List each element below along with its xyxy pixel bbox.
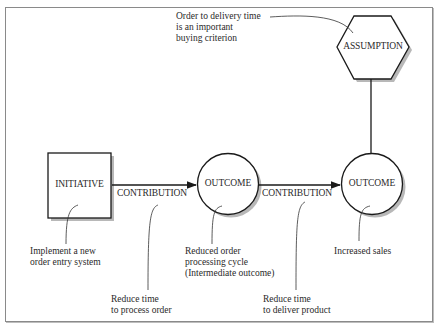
assumption-note-leader	[270, 16, 353, 33]
initiative-label: INITIATIVE	[48, 179, 111, 189]
assumption-note: Order to delivery time is an important b…	[176, 11, 261, 44]
initiative-note: Implement a new order entry system	[30, 246, 101, 268]
contribution-2-note-leader	[296, 202, 305, 290]
contribution-1-label: CONTRIBUTION	[117, 188, 187, 198]
outcome-2-label: OUTCOME	[342, 178, 402, 188]
outcome-2-note: Increased sales	[334, 246, 391, 257]
contribution-2-label: CONTRIBUTION	[262, 188, 332, 198]
contribution-1-note: Reduce time to process order	[111, 294, 172, 316]
outcome-1-label: OUTCOME	[198, 178, 258, 188]
outcome-1-note: Reduced order processing cycle (Intermed…	[185, 246, 274, 279]
contribution-1-note-leader	[148, 205, 158, 290]
assumption-label: ASSUMPTION	[337, 41, 409, 51]
contribution-2-note: Reduce time to deliver product	[263, 294, 331, 316]
